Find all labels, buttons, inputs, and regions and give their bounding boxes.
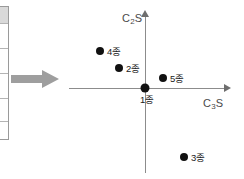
scatter-chart: C2S C3S 1종2종3종4종5종 [0,0,244,179]
y-axis-label-tail: S [135,12,143,24]
y-axis-label: C2S [122,12,142,26]
data-point-label: 3종 [191,150,205,164]
figure-root: C2S C3S 1종2종3종4종5종 [0,0,244,179]
data-point [96,47,104,55]
x-axis-label-tail: S [216,97,224,109]
y-axis-label-base: C [122,12,130,24]
x-axis-arrowhead-icon [224,84,231,92]
data-point-label: 2종 [126,61,140,75]
data-point [115,64,123,72]
data-point [180,153,188,161]
data-point [159,74,167,82]
data-point-label: 5종 [170,71,184,85]
data-point-label: 4종 [107,44,121,58]
data-point-label: 1종 [140,92,154,106]
x-axis-label: C3S [203,97,223,111]
x-axis-label-base: C [203,97,211,109]
